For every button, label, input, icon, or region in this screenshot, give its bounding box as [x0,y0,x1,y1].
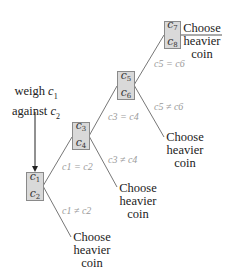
node-c7-c8: c7c8 [164,21,181,49]
leaf-choose-heavier: Chooseheaviercoin [116,182,160,221]
edge-label: c3 ≠ c4 [108,154,137,165]
start-label: weigh c1 against c2 [8,84,64,123]
leaf-choose-heavier: Chooseheaviercoin [180,22,224,61]
node-c1-c2: c1c2 [26,172,44,201]
edge-label: c1 ≠ c2 [62,205,91,216]
leaf-choose-heavier: Chooseheaviercoin [163,131,207,170]
edge-label: c5 ≠ c6 [154,101,183,112]
node-c3-c4: c3c4 [72,122,90,150]
node-c5-c6: c5c6 [117,71,135,100]
edge-label: c3 = c4 [108,111,139,122]
edge-label: c1 = c2 [62,161,93,172]
leaf-choose-heavier: Chooseheaviercoin [70,231,114,270]
